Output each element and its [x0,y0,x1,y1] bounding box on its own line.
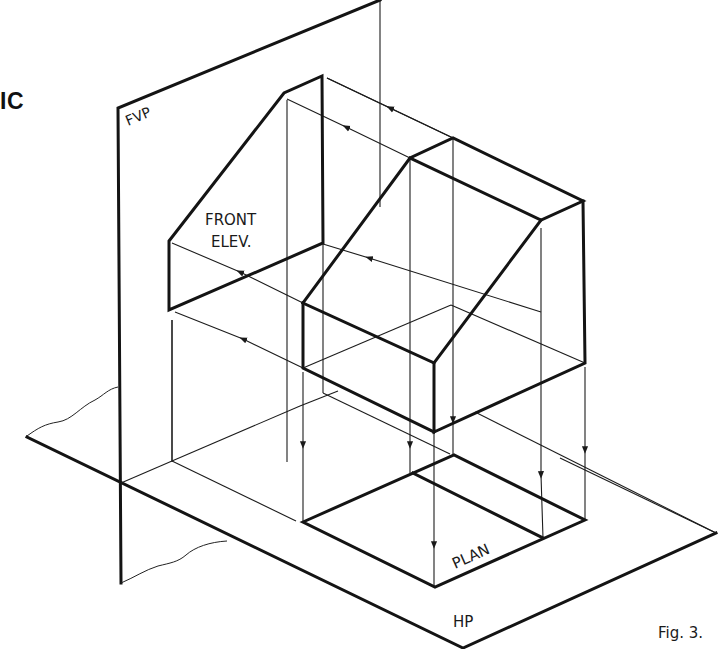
horizontal-plane [27,437,716,648]
front-elevation [169,76,323,310]
front-elevation-label-line2: ELEV. [211,233,251,251]
orthographic-projection-diagram: FVP FRONT ELEV. PLAN HP [0,0,722,649]
fvp-label: FVP [123,104,153,129]
front-vertical-plane [27,0,380,583]
plan-label: PLAN [449,540,492,572]
figure-caption: Fig. 3. [658,624,703,642]
front-elevation-label-line1: FRONT [205,211,257,229]
solid-block [303,138,585,432]
hp-label: HP [453,613,473,631]
